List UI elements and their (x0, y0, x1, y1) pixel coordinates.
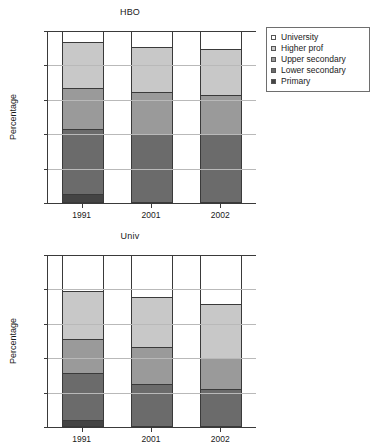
legend-item[interactable]: Higher prof (271, 43, 363, 54)
bar-segment[interactable] (132, 30, 172, 47)
y-tick-mark (44, 255, 48, 256)
x-axis-hbo: 199120012002 (47, 204, 255, 224)
legend-item[interactable]: Primary (271, 76, 363, 87)
bar-group (131, 255, 173, 427)
legend-swatch-icon (271, 79, 276, 84)
plot-area-hbo: 020406080100 (47, 31, 256, 204)
gridline (48, 100, 256, 101)
y-tick-mark (44, 31, 48, 32)
stacked-bar[interactable] (131, 31, 173, 203)
bar-segment[interactable] (201, 30, 241, 49)
bar-segment[interactable] (201, 304, 241, 358)
legend-hbo: UniversityHigher profUpper secondaryLowe… (266, 27, 370, 92)
y-axis-label-hbo: Percentage (6, 31, 20, 203)
bar-segment[interactable] (132, 347, 172, 384)
x-tick-mark (151, 428, 152, 432)
chart-title-univ: Univ (0, 231, 260, 241)
y-tick-mark (44, 289, 48, 290)
gridline (48, 31, 256, 32)
gridline (48, 255, 256, 256)
y-tick-mark (44, 65, 48, 66)
legend-label: Upper secondary (281, 54, 346, 65)
gridline (48, 358, 256, 359)
stacked-bar-figure: HBO Percentage 020406080100 199120012002… (0, 0, 376, 447)
legend-swatch-icon (271, 57, 276, 62)
y-tick-mark (44, 393, 48, 394)
bar-segment[interactable] (201, 95, 241, 134)
x-tick-mark (220, 204, 221, 208)
bar-segment[interactable] (63, 339, 103, 373)
legend-label: Lower secondary (281, 65, 346, 76)
chart-title-hbo: HBO (0, 7, 260, 17)
legend-item[interactable]: Lower secondary (271, 65, 363, 76)
bar-segment[interactable] (201, 49, 241, 95)
x-tick-mark (220, 428, 221, 432)
gridline (48, 169, 256, 170)
bar-segment[interactable] (63, 129, 103, 194)
bar-segment[interactable] (132, 384, 172, 426)
bar-segment[interactable] (132, 92, 172, 134)
stacked-bar[interactable] (131, 255, 173, 427)
stacked-bar[interactable] (200, 255, 242, 427)
x-tick-label: 1991 (52, 434, 112, 444)
gridline (48, 289, 256, 290)
x-tick-mark (82, 428, 83, 432)
gridline (48, 65, 256, 66)
bars-container-hbo (48, 31, 256, 203)
bar-segment[interactable] (63, 194, 103, 202)
bar-segment[interactable] (201, 254, 241, 304)
x-tick-mark (82, 204, 83, 208)
bar-segment[interactable] (63, 88, 103, 129)
bar-group (62, 31, 104, 203)
bar-segment[interactable] (132, 254, 172, 297)
chart-panel-univ: Univ Percentage 020406080100 19912001200… (0, 224, 376, 447)
bar-segment[interactable] (63, 373, 103, 420)
bar-segment[interactable] (132, 297, 172, 347)
legend-label: University (281, 32, 318, 43)
stacked-bar[interactable] (62, 255, 104, 427)
plot-area-univ: 020406080100 (47, 255, 256, 428)
y-tick-mark (44, 169, 48, 170)
stacked-bar[interactable] (62, 31, 104, 203)
legend-item[interactable]: Upper secondary (271, 54, 363, 65)
chart-panel-hbo: HBO Percentage 020406080100 199120012002… (0, 0, 376, 223)
bar-segment[interactable] (63, 254, 103, 291)
x-tick-label: 2001 (121, 210, 181, 220)
legend-label: Primary (281, 76, 310, 87)
bar-group (200, 31, 242, 203)
bar-group (62, 255, 104, 427)
y-tick-mark (44, 358, 48, 359)
x-axis-univ: 199120012002 (47, 428, 255, 447)
bar-segment[interactable] (63, 420, 103, 426)
y-axis-label-text: Percentage (8, 318, 18, 364)
x-tick-label: 2002 (190, 210, 250, 220)
y-tick-mark (44, 100, 48, 101)
legend-label: Higher prof (281, 43, 323, 54)
bar-segment[interactable] (201, 389, 241, 426)
bar-segment[interactable] (201, 358, 241, 389)
y-axis-label-text: Percentage (8, 94, 18, 140)
bar-group (200, 255, 242, 427)
bar-segment[interactable] (63, 291, 103, 339)
gridline (48, 134, 256, 135)
gridline (48, 393, 256, 394)
y-tick-mark (44, 134, 48, 135)
stacked-bar[interactable] (200, 31, 242, 203)
x-tick-mark (151, 204, 152, 208)
legend-swatch-icon (271, 35, 276, 40)
y-tick-mark (44, 324, 48, 325)
x-tick-label: 1991 (52, 210, 112, 220)
y-axis-label-univ: Percentage (6, 255, 20, 427)
legend-swatch-icon (271, 46, 276, 51)
bar-group (131, 31, 173, 203)
legend-swatch-icon (271, 68, 276, 73)
bar-segment[interactable] (132, 47, 172, 92)
gridline (48, 324, 256, 325)
legend-item[interactable]: University (271, 32, 363, 43)
bars-container-univ (48, 255, 256, 427)
x-tick-label: 2002 (190, 434, 250, 444)
x-tick-label: 2001 (121, 434, 181, 444)
